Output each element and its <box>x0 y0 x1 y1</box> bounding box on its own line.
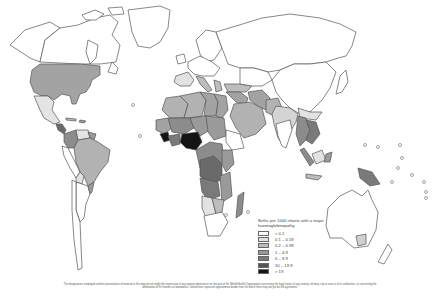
map-legend: Births per 1000 infants with a major hae… <box>258 218 328 275</box>
south-america <box>62 130 110 270</box>
region-central-america <box>56 124 66 134</box>
region-mexico <box>34 96 60 124</box>
legend-swatch <box>258 263 269 268</box>
caribbean-islands <box>66 118 86 123</box>
legend-swatch <box>258 237 269 242</box>
legend-swatch <box>258 269 269 274</box>
legend-title: Births per 1000 infants with a major hae… <box>258 218 328 228</box>
world-map <box>0 0 438 299</box>
region-japan <box>336 70 348 94</box>
region-australia-southeast <box>356 234 366 246</box>
legend-swatch <box>258 256 269 261</box>
southeast-asia <box>296 116 380 186</box>
legend-item: > 19 <box>258 268 328 274</box>
legend-swatch <box>258 243 269 248</box>
map-disclaimer: The designations employed and the presen… <box>60 283 380 289</box>
region-russia <box>216 14 356 72</box>
region-australia <box>326 190 378 248</box>
region-india-south <box>276 120 292 148</box>
legend-swatch <box>258 250 269 255</box>
region-new-zealand <box>378 244 392 264</box>
legend-swatch <box>258 231 269 236</box>
north-america-arctic <box>10 6 170 74</box>
